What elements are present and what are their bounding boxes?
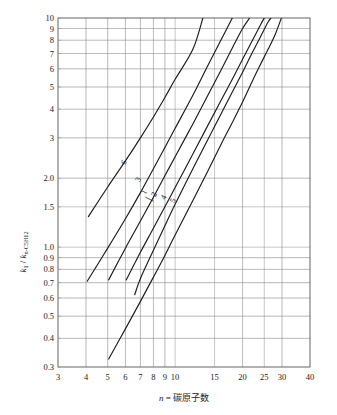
x-axis-title: n = 碳原子数	[159, 392, 209, 403]
x-tick-20: 20	[238, 372, 247, 382]
curve-3	[87, 18, 232, 281]
curve-5	[109, 18, 282, 359]
x-tick-4: 4	[84, 372, 89, 382]
curve-4	[135, 18, 271, 295]
y-tick-0.6: 0.6	[43, 293, 54, 303]
x-tick-8: 8	[151, 372, 155, 382]
x-tick-6: 6	[123, 372, 127, 382]
curve-label-6: 6	[119, 158, 129, 166]
x-tick-9: 9	[163, 372, 167, 382]
svg-text:n = 碳原子数: n = 碳原子数	[159, 392, 209, 403]
y-tick-0.5: 0.5	[43, 311, 54, 321]
y-tick-0.9: 0.9	[43, 253, 54, 263]
y-tick-6: 6	[50, 64, 54, 74]
y-tick-8: 8	[50, 35, 54, 45]
y-tick-10: 10	[46, 13, 55, 23]
y-tick-1.0: 1.0	[43, 242, 54, 252]
x-tick-15: 15	[210, 372, 219, 382]
y-tick-4: 4	[50, 104, 55, 114]
y-tick-9: 9	[50, 24, 54, 34]
y-tick-0.7: 0.7	[43, 278, 54, 288]
svg-text:k1 / kn-C5H12: k1 / kn-C5H12	[18, 231, 29, 272]
y-tick-0.3: 0.3	[43, 362, 54, 372]
plot-border	[58, 18, 310, 367]
curve-label-group: 631245	[119, 158, 178, 204]
curve-label-3: 3	[133, 176, 143, 184]
y-tick-0.8: 0.8	[43, 264, 54, 274]
y-tick-5: 5	[50, 82, 54, 92]
curve-label-5: 5	[168, 197, 178, 205]
major-gridlines	[58, 18, 310, 367]
chart-figure: 631245 0.30.40.50.60.70.80.91.01.52.0345…	[0, 0, 337, 415]
x-tick-7: 7	[138, 372, 142, 382]
y-tick-2.0: 2.0	[43, 173, 54, 183]
x-tick-30: 30	[278, 372, 287, 382]
x-tick-10: 10	[171, 372, 180, 382]
x-axis-tick-labels: 3456789101520253040	[56, 372, 314, 382]
x-tick-40: 40	[306, 372, 315, 382]
curve-label-2: 2	[149, 191, 159, 199]
y-tick-0.4: 0.4	[43, 333, 54, 343]
minor-gridlines	[58, 18, 310, 367]
curve-group	[87, 18, 281, 359]
x-tick-5: 5	[106, 372, 110, 382]
y-tick-3: 3	[50, 133, 54, 143]
x-tick-25: 25	[260, 372, 269, 382]
curve-1	[109, 18, 250, 280]
x-tick-3: 3	[56, 372, 60, 382]
log-log-chart: 631245 0.30.40.50.60.70.80.91.01.52.0345…	[0, 0, 337, 415]
y-tick-7: 7	[50, 49, 54, 59]
plot-frame	[58, 18, 310, 367]
curve-6	[88, 18, 202, 217]
y-tick-1.5: 1.5	[43, 202, 54, 212]
curve-label-1: 1	[139, 188, 149, 196]
y-axis-title: k1 / kn-C5H12	[18, 231, 29, 272]
curve-2	[126, 18, 264, 280]
